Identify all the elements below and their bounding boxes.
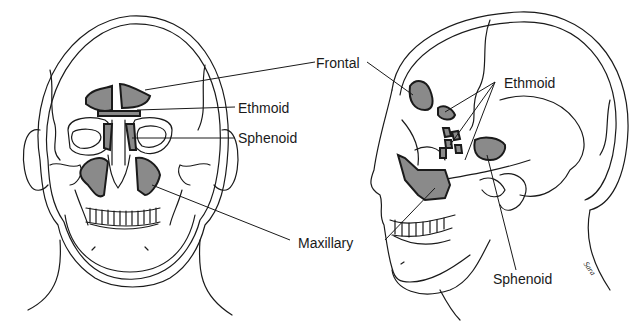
sphenoid-sinus-front-right (126, 124, 136, 150)
label-ethmoid-front: Ethmoid (238, 101, 289, 115)
maxillary-sinus-right (136, 158, 160, 195)
label-sphenoid-front: Sphenoid (238, 131, 297, 145)
label-sphenoid-side: Sphenoid (493, 272, 552, 286)
sphenoid-sinus-front-left (104, 124, 112, 150)
ethmoid-sinus-side-1 (438, 106, 455, 119)
label-maxillary: Maxillary (298, 236, 353, 250)
frontal-view-head (23, 16, 238, 315)
frontal-sinus-right (120, 84, 150, 108)
maxillary-sinus-left (80, 158, 108, 196)
frontal-sinus-side (410, 81, 433, 110)
sphenoid-sinus-side (474, 138, 505, 160)
maxillary-sinus-side (398, 155, 450, 200)
label-ethmoid-side: Ethmoid (504, 76, 555, 90)
frontal-sinus-left (86, 86, 112, 111)
label-frontal: Frontal (316, 56, 360, 70)
ethmoid-sinus-front (98, 111, 140, 116)
